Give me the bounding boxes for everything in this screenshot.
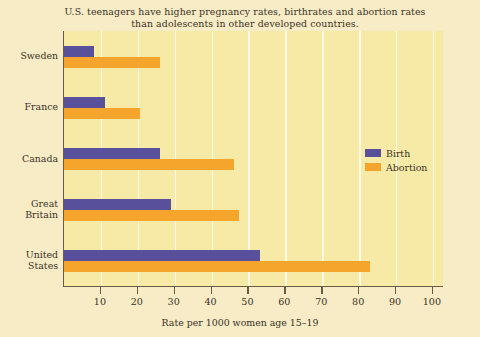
legend-item-birth: Birth — [365, 146, 427, 160]
bar-france-abortion — [64, 108, 140, 119]
bar-canada-birth — [64, 148, 160, 159]
legend-item-abortion: Abortion — [365, 160, 427, 174]
x-tick-mark — [432, 287, 433, 294]
chart-title-line-2: than adolescents in other developed coun… — [60, 18, 430, 30]
bar-canada-abortion — [64, 159, 234, 170]
x-tick-label: 70 — [301, 296, 341, 307]
bar-chart: U.S. teenagers have higher pregnancy rat… — [0, 0, 480, 337]
x-tick-label: 80 — [338, 296, 378, 307]
x-tick-label: 50 — [227, 296, 267, 307]
gridline — [359, 31, 360, 286]
legend-swatch-birth — [365, 149, 381, 157]
x-tick-label: 30 — [154, 296, 194, 307]
bar-france-birth — [64, 97, 105, 108]
y-axis-label-sweden: Sweden — [20, 50, 58, 61]
y-axis-label-united-states: UnitedStates — [26, 249, 58, 271]
bar-great-britain-birth — [64, 199, 171, 210]
legend-swatch-abortion — [365, 163, 381, 171]
x-tick-mark — [174, 287, 175, 294]
y-axis-label-canada: Canada — [22, 153, 58, 164]
x-tick-label: 40 — [191, 296, 231, 307]
bar-united-states-birth — [64, 250, 260, 261]
gridline — [322, 31, 323, 286]
x-tick-label: 60 — [264, 296, 304, 307]
legend-label-abortion: Abortion — [386, 162, 427, 173]
x-tick-label: 100 — [412, 296, 452, 307]
x-tick-mark — [100, 287, 101, 294]
x-tick-mark — [284, 287, 285, 294]
legend-label-birth: Birth — [386, 148, 410, 159]
gridline — [285, 31, 286, 286]
x-tick-label: 20 — [117, 296, 157, 307]
gridline — [433, 31, 434, 286]
chart-title-line-1: U.S. teenagers have higher pregnancy rat… — [60, 6, 430, 18]
y-axis-label-great-britain: GreatBritain — [25, 198, 58, 220]
x-axis-title: Rate per 1000 women age 15–19 — [0, 317, 480, 328]
x-tick-mark — [137, 287, 138, 294]
x-tick-label: 90 — [375, 296, 415, 307]
chart-title: U.S. teenagers have higher pregnancy rat… — [60, 6, 430, 30]
bar-united-states-abortion — [64, 261, 370, 272]
x-tick-mark — [321, 287, 322, 294]
legend: Birth Abortion — [365, 146, 427, 174]
bar-sweden-abortion — [64, 57, 160, 68]
x-tick-label: 10 — [80, 296, 120, 307]
x-tick-mark — [247, 287, 248, 294]
y-axis-label-france: France — [25, 101, 58, 112]
gridline — [248, 31, 249, 286]
x-tick-mark — [395, 287, 396, 294]
bar-sweden-birth — [64, 46, 94, 57]
x-tick-mark — [358, 287, 359, 294]
x-tick-mark — [211, 287, 212, 294]
bar-great-britain-abortion — [64, 210, 239, 221]
